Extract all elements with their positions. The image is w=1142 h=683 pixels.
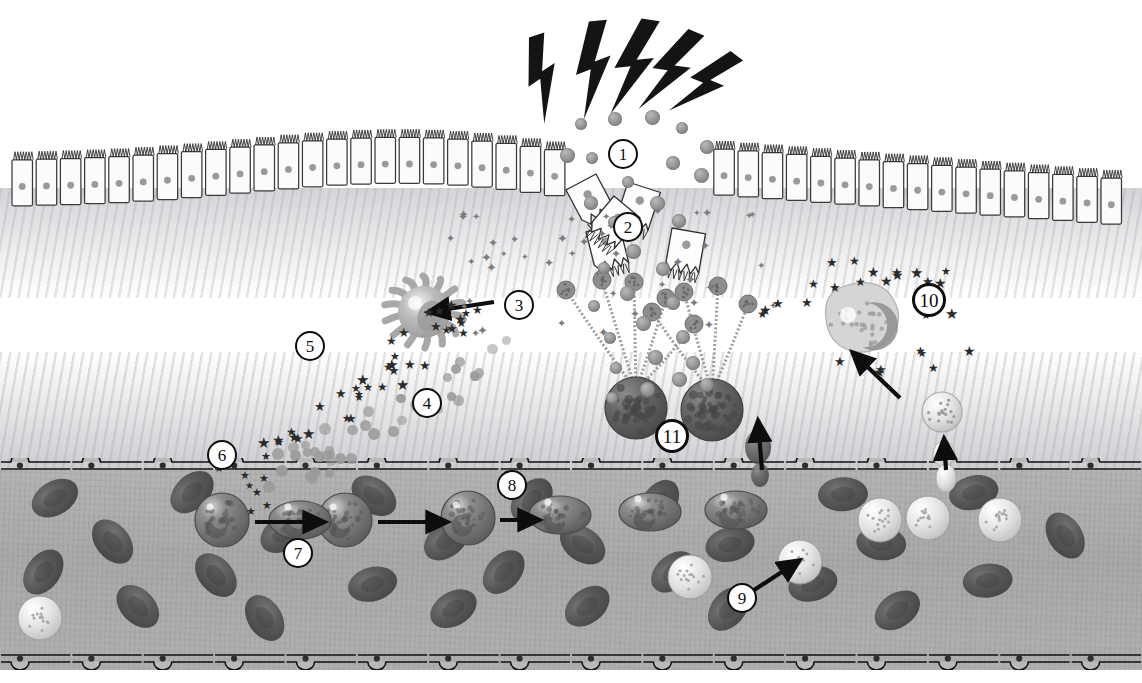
chemokine-dot: [272, 448, 284, 460]
cytokine-square: ✦: [702, 208, 712, 220]
allergen-particle: [626, 244, 641, 259]
inflammatory-mediator: ★: [873, 366, 886, 380]
chemokine-dot: [368, 428, 380, 440]
allergen-particle: [598, 262, 610, 274]
inflammatory-mediator: ★: [928, 363, 939, 375]
cytokine-square: ✦: [609, 289, 617, 299]
cytokine-square: ✦: [704, 319, 714, 331]
inflammatory-mediator: ★: [419, 360, 431, 373]
inflammatory-mediator: ★: [261, 451, 271, 462]
lightning-bolt: [611, 17, 660, 115]
allergen-particle: [560, 148, 575, 163]
cytokine-square: ✦: [467, 257, 475, 267]
allergen-particle: [676, 122, 688, 134]
cytokine-square: ✦: [693, 209, 701, 218]
allergen-particle: [686, 356, 700, 370]
chemokine-dot: [397, 416, 406, 425]
inflammatory-mediator: ★: [963, 345, 976, 359]
allergen-particle: [620, 286, 635, 301]
inflammatory-mediator: ★: [262, 500, 272, 511]
inflammatory-mediator: ★: [396, 378, 409, 393]
allergen-particle: [604, 332, 616, 344]
chemokine-dot: [346, 453, 357, 464]
inflammatory-mediator: ★: [430, 320, 442, 333]
callout-7[interactable]: 7: [283, 538, 313, 568]
callout-4[interactable]: 4: [412, 388, 442, 418]
inflammatory-mediator: ★: [386, 336, 397, 348]
inflammatory-mediator: ★: [398, 327, 410, 340]
detached-epithelial-cell: [663, 228, 705, 283]
allergen-particle: [676, 330, 690, 344]
chemokine-dot: [487, 344, 497, 354]
cytokine-square: ✦: [611, 249, 621, 261]
inflammatory-mediator: ★: [855, 276, 866, 288]
cytokine-square: ✦: [700, 241, 710, 253]
allergen-particle: [608, 112, 622, 126]
lightning-bolts: [507, 17, 744, 130]
allergen-particle: [700, 140, 714, 154]
inflammatory-mediator: ★: [849, 255, 860, 267]
callout-1[interactable]: 1: [608, 139, 638, 169]
cytokine-square: ✦: [705, 282, 716, 295]
allergen-particle: [606, 392, 618, 404]
cytokine-square: ✦: [748, 210, 756, 220]
inflammatory-mediator: ★: [826, 256, 838, 269]
inflammatory-mediator: ★: [801, 296, 813, 309]
callout-3[interactable]: 3: [504, 290, 534, 320]
arrow-diapedesis-right: [944, 438, 946, 470]
cytokine-square: ✦: [458, 209, 469, 222]
allergen-particle: [694, 168, 709, 183]
allergen-particle: [672, 372, 687, 387]
allergen-particle: [656, 262, 670, 276]
cytokine-square: ✦: [488, 237, 498, 249]
inflammatory-mediator: ★: [252, 487, 262, 498]
allergen-particle: [666, 296, 680, 310]
inflammatory-mediator: ★: [377, 381, 388, 393]
callout-5[interactable]: 5: [295, 331, 325, 361]
callout-8[interactable]: 8: [497, 470, 527, 500]
allergen-particle: [650, 196, 665, 211]
migrated-eosinophil: [922, 392, 962, 432]
inflammatory-mediator: ★: [829, 282, 841, 295]
chemokine-dot: [502, 336, 511, 345]
inflammatory-mediator: ★: [257, 436, 270, 451]
cytokine-square: ✦: [472, 212, 480, 222]
inflammatory-mediator: ★: [910, 266, 923, 281]
inflammatory-mediator: ★: [472, 304, 483, 316]
cytokine-square: ✦: [446, 233, 455, 244]
chemokine-dot: [451, 364, 461, 374]
inflammatory-mediator: ★: [363, 382, 373, 393]
allergen-particle: [700, 378, 714, 392]
callout-2[interactable]: 2: [613, 212, 643, 242]
diapedesis-cells: [745, 392, 962, 492]
inflammatory-mediator: ★: [808, 279, 819, 291]
cytokine-square: ✦: [500, 250, 508, 259]
cytokine-square: ✦: [567, 214, 576, 226]
lightning-bolt: [507, 31, 580, 124]
callout-10[interactable]: 10: [912, 283, 946, 317]
callout-11[interactable]: 11: [655, 419, 689, 453]
callout-6[interactable]: 6: [207, 440, 237, 470]
cytokine-square: ✦: [689, 298, 699, 310]
cytokine-square: ✦: [521, 253, 529, 262]
inflammatory-mediator: ★: [272, 434, 285, 448]
chemokine-dot: [305, 471, 316, 482]
cytokine-square: ✦: [658, 280, 666, 290]
allergen-particle: [636, 316, 651, 331]
callout-9[interactable]: 9: [727, 583, 757, 613]
cytokine-square: ✦: [471, 329, 480, 340]
figure-canvas: ✦✦✦✦✦✦✦✦✦✦✦✦✦✦✦✦✦✦✦✦✦✦✦✦✦✦✦✦✦✦✦✦✦✦✦✦✦✦✦✦…: [0, 0, 1142, 683]
cytokine-square: ✦: [510, 234, 519, 245]
inflammatory-mediator: ★: [259, 473, 269, 484]
cytokine-square: ✦: [757, 261, 765, 271]
inflammatory-mediator: ★: [461, 308, 471, 319]
cells-and-symbols-layer: [0, 0, 1142, 683]
allergen-particle: [575, 118, 587, 130]
inflammatory-mediator: ★: [945, 307, 958, 322]
inflammatory-mediator: ★: [757, 309, 768, 321]
allergen-particle: [588, 300, 600, 312]
cytokine-square: ✦: [568, 249, 576, 259]
inflammatory-mediator: ★: [772, 297, 784, 310]
chemokine-dot: [303, 448, 311, 456]
allergen-particle: [640, 382, 655, 397]
